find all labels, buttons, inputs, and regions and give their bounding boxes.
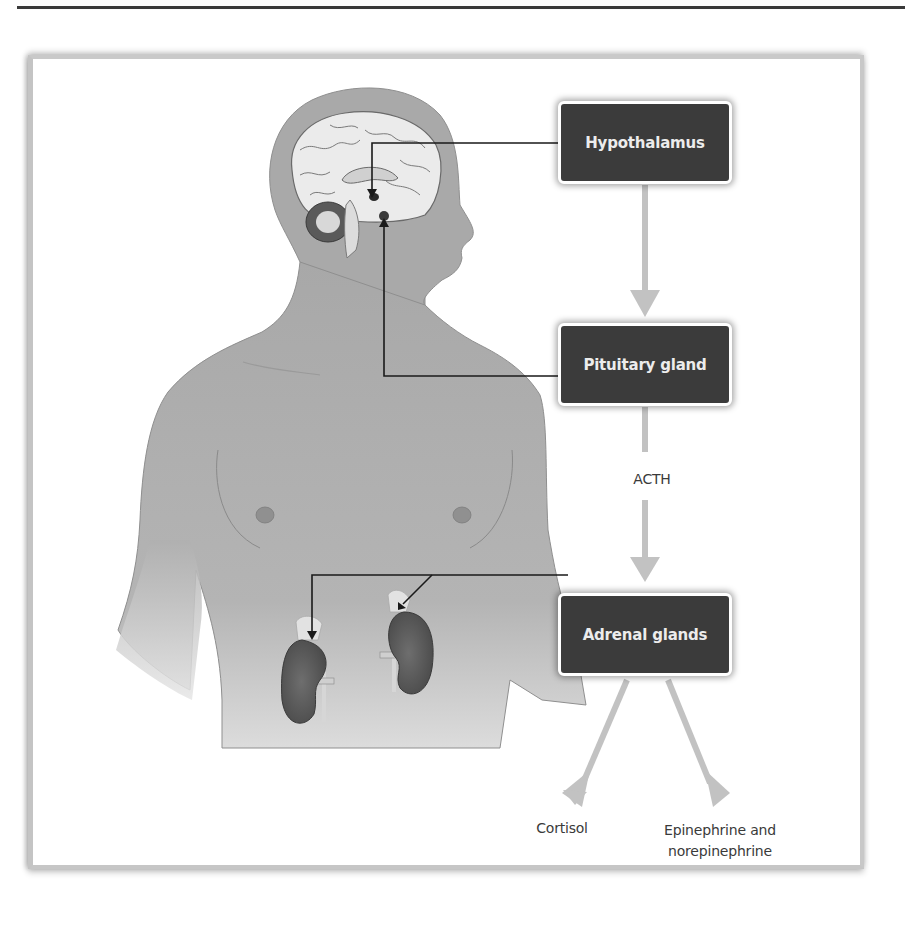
pituitary-gland-box: Pituitary gland (558, 323, 732, 406)
page-top-rule-right-half (505, 6, 905, 9)
flow-arrows (562, 185, 730, 807)
arrow-to-cortisol-shaft (583, 680, 627, 783)
right-nipple (453, 507, 471, 523)
adrenal-glands-box: Adrenal glands (558, 593, 732, 676)
left-nipple (256, 507, 274, 523)
anatomy-illustration (0, 0, 921, 941)
epinephrine-label-line2: norepinephrine (640, 841, 800, 862)
arrow-to-epinephrine-head (705, 770, 730, 807)
acth-label: ACTH (612, 471, 692, 487)
arrow-acth-to-adrenal-head (630, 557, 660, 582)
cerebellum-core (316, 211, 340, 233)
arrow-pit-to-acth-shaft (642, 407, 648, 452)
epinephrine-label-line1: Epinephrine and (640, 820, 800, 841)
left-adrenal-gland (296, 616, 322, 640)
hypothalamus-box: Hypothalamus (558, 101, 732, 184)
arrow-hypo-to-pit-shaft (642, 185, 648, 290)
arrow-hypo-to-pit-head (630, 290, 660, 317)
adrenal-glands-label: Adrenal glands (583, 626, 708, 644)
pituitary-gland-label: Pituitary gland (583, 356, 706, 374)
arrow-acth-to-adrenal-shaft (642, 500, 648, 560)
epinephrine-label: Epinephrine and norepinephrine (640, 820, 800, 862)
hypothalamus-label: Hypothalamus (585, 134, 704, 152)
page-top-rule (17, 6, 506, 9)
left-arm (116, 540, 202, 700)
cortisol-label: Cortisol (512, 820, 612, 836)
arrow-to-epinephrine-shaft (668, 680, 710, 783)
